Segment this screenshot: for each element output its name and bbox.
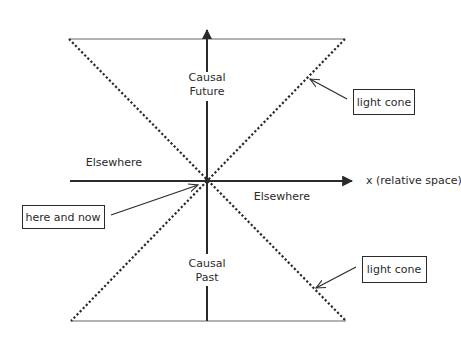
causal-future-label-1: Causal <box>189 71 226 84</box>
causal-future-label-2: Future <box>189 85 224 98</box>
here-and-now-pointer <box>111 185 198 215</box>
light-cone-pointer-upper <box>310 79 347 99</box>
light-cone-callout-label-upper: light cone <box>357 96 412 109</box>
origin-point <box>205 179 210 184</box>
light-cone-pointer-lower <box>316 267 356 288</box>
here-and-now-callout-label: here and now <box>25 211 100 224</box>
elsewhere-left-label: Elsewhere <box>86 156 143 169</box>
elsewhere-right-label: Elsewhere <box>254 190 311 203</box>
light-cone-diagram: Causal Future Causal Past Elsewhere Else… <box>0 0 461 341</box>
causal-past-label-2: Past <box>196 271 220 284</box>
light-cone-callout-label-lower: light cone <box>367 263 422 276</box>
causal-past-label-1: Causal <box>189 257 226 270</box>
space-axis-label: x (relative space) <box>366 174 461 187</box>
